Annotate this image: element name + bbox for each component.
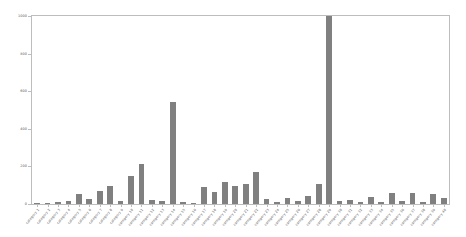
x-tick — [413, 204, 414, 207]
y-tick — [28, 129, 32, 130]
bar — [170, 102, 176, 204]
bar — [368, 197, 374, 204]
x-tick — [214, 204, 215, 207]
y-tick — [28, 16, 32, 17]
x-tick — [267, 204, 268, 207]
bar — [222, 182, 228, 204]
y-tick — [28, 166, 32, 167]
x-tick — [423, 204, 424, 207]
x-tick — [121, 204, 122, 207]
x-tick — [225, 204, 226, 207]
y-tick-label: 200 — [20, 164, 27, 168]
x-tick-label: category 40 — [424, 208, 446, 234]
bar — [243, 184, 249, 204]
y-tick-label: 0 — [25, 202, 27, 206]
x-tick — [79, 204, 80, 207]
x-tick — [68, 204, 69, 207]
x-tick — [308, 204, 309, 207]
x-tick — [89, 204, 90, 207]
x-tick — [152, 204, 153, 207]
bar — [389, 193, 395, 204]
x-tick — [58, 204, 59, 207]
x-tick — [444, 204, 445, 207]
x-tick — [298, 204, 299, 207]
x-tick — [131, 204, 132, 207]
y-tick-label: 600 — [20, 89, 27, 93]
x-tick — [360, 204, 361, 207]
x-tick — [162, 204, 163, 207]
x-tick — [433, 204, 434, 207]
x-tick — [340, 204, 341, 207]
y-tick-label: 1000 — [18, 14, 27, 18]
bar — [430, 194, 436, 204]
x-tick — [392, 204, 393, 207]
x-tick — [246, 204, 247, 207]
bar — [76, 194, 82, 204]
x-tick — [141, 204, 142, 207]
x-tick — [277, 204, 278, 207]
y-tick — [28, 204, 32, 205]
bar — [97, 191, 103, 204]
x-tick — [329, 204, 330, 207]
bar — [326, 16, 332, 204]
bar — [107, 186, 113, 204]
x-tick — [100, 204, 101, 207]
x-tick — [194, 204, 195, 207]
x-tick — [402, 204, 403, 207]
x-tick — [173, 204, 174, 207]
x-tick — [48, 204, 49, 207]
bar — [316, 184, 322, 204]
bar — [232, 186, 238, 204]
plot-area: category 1category 2category 3category 4… — [31, 15, 450, 205]
bar — [139, 164, 145, 204]
figure: category 1category 2category 3category 4… — [0, 0, 466, 237]
bar — [410, 193, 416, 204]
x-tick — [381, 204, 382, 207]
x-tick — [256, 204, 257, 207]
bar — [305, 196, 311, 204]
bar — [128, 176, 134, 204]
x-tick — [110, 204, 111, 207]
bar — [253, 172, 259, 204]
bar — [212, 192, 218, 204]
x-tick — [319, 204, 320, 207]
x-tick — [37, 204, 38, 207]
x-tick — [287, 204, 288, 207]
y-tick — [28, 54, 32, 55]
x-tick — [371, 204, 372, 207]
bar — [201, 187, 207, 204]
y-tick-label: 400 — [20, 127, 27, 131]
x-tick — [183, 204, 184, 207]
y-tick-label: 800 — [20, 52, 27, 56]
x-tick — [235, 204, 236, 207]
y-tick — [28, 91, 32, 92]
x-tick — [350, 204, 351, 207]
x-tick — [204, 204, 205, 207]
